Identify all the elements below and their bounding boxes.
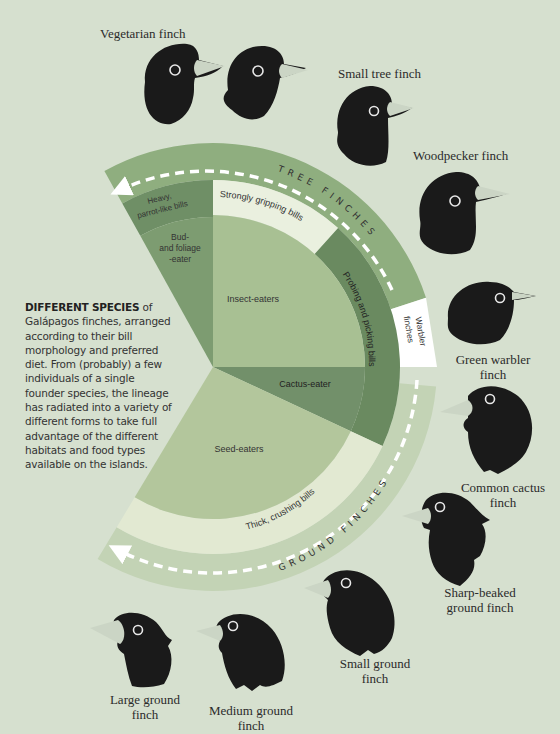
bird-green-warbler-finch (448, 282, 536, 345)
bird-small-tree-finch (224, 46, 308, 119)
seed-eaters-label: Seed-eaters (214, 444, 264, 454)
label-large-ground-finch: Large ground finch (95, 692, 195, 722)
label-small-ground-finch: Small ground finch (325, 656, 425, 686)
intro-heading: DIFFERENT SPECIES (25, 301, 139, 313)
label-line: Medium ground (196, 703, 306, 718)
bird-common-cactus-finch (440, 386, 532, 474)
insect-eaters-label: Insect-eaters (227, 294, 280, 304)
label-line: finch (95, 707, 195, 722)
label-sharp-beaked-ground-finch: Sharp-beaked ground finch (420, 585, 540, 615)
svg-text:and foliage: and foliage (159, 243, 201, 253)
cactus-eater-label: Cactus-eater (279, 379, 331, 389)
label-common-cactus-finch: Common cactus finch (448, 480, 558, 510)
label-line: Sharp-beaked (420, 585, 540, 600)
label-line: Green warbler (438, 352, 548, 367)
label-green-warbler-finch: Green warbler finch (438, 352, 548, 382)
intro-body: of Galápagos finches, arranged according… (25, 301, 172, 470)
label-line: finch (196, 718, 306, 733)
svg-text:Bud-: Bud- (171, 232, 189, 242)
bird-large-ground-finch (90, 613, 172, 688)
label-line: finch (448, 495, 558, 510)
label-line: Large ground (95, 692, 195, 707)
intro-paragraph: DIFFERENT SPECIES of Galápagos finches, … (25, 300, 175, 472)
label-line: finch (438, 367, 548, 382)
bird-vegetarian-finch (144, 44, 225, 124)
label-line: Common cactus (448, 480, 558, 495)
bird-medium-ground-finch (196, 614, 285, 691)
label-line: ground finch (420, 600, 540, 615)
bird-small-ground-finch (304, 570, 395, 656)
bird-woodpecker-finch (419, 172, 510, 254)
svg-text:-eater: -eater (169, 254, 191, 264)
label-woodpecker-finch: Woodpecker finch (413, 148, 553, 163)
bird-small-tree-finch-2 (337, 86, 414, 166)
label-vegetarian-finch: Vegetarian finch (100, 26, 240, 41)
label-small-tree-finch: Small tree finch (338, 66, 458, 81)
label-line: Small ground (325, 656, 425, 671)
label-medium-ground-finch: Medium ground finch (196, 703, 306, 733)
label-line: finch (325, 671, 425, 686)
